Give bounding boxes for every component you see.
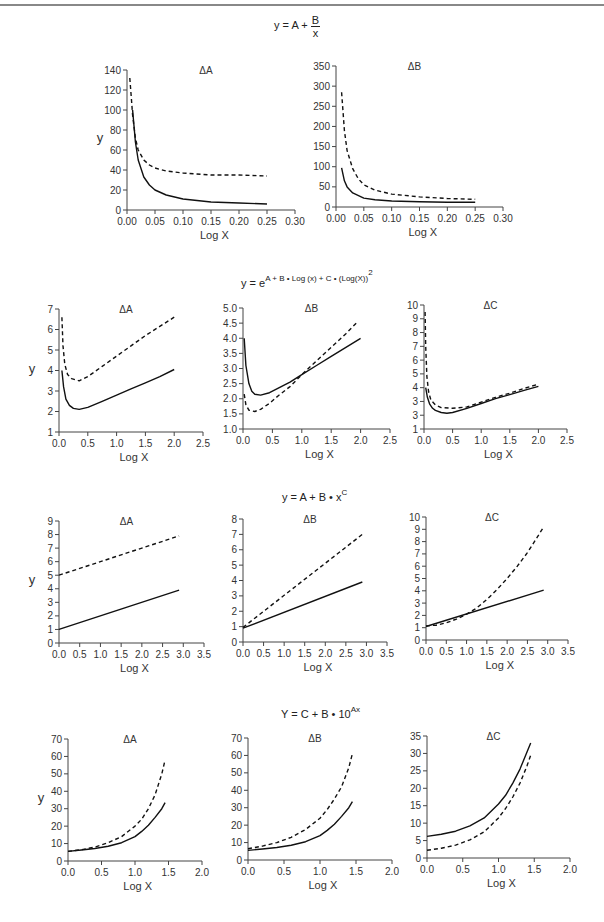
y-tick-label: 30 bbox=[410, 748, 422, 759]
y-tick-label: 9 bbox=[47, 516, 53, 527]
y-tick-label: 3 bbox=[412, 396, 418, 407]
x-axis-label: Log X bbox=[304, 661, 333, 673]
x-tick-label: 0.30 bbox=[285, 216, 305, 227]
chart-10: 0.00.51.01.52.005101520253035ΔCLog X bbox=[410, 731, 578, 890]
chart-title: ΔB bbox=[408, 61, 422, 72]
x-tick-label: 1.5 bbox=[114, 649, 128, 660]
y-tick-label: 0 bbox=[231, 637, 237, 648]
x-tick-label: 0.5 bbox=[265, 435, 279, 446]
solid-series-line bbox=[342, 168, 476, 202]
x-tick-label: 3.0 bbox=[176, 649, 190, 660]
y-tick-label: 40 bbox=[110, 165, 122, 176]
chart-7: 0.00.51.01.52.02.53.03.5012345678910ΔCLo… bbox=[409, 512, 576, 672]
charts-canvas: 0.000.050.100.150.200.250.30020406080100… bbox=[0, 0, 604, 922]
x-tick-label: 1.5 bbox=[480, 646, 494, 657]
x-tick-label: 2.0 bbox=[531, 435, 545, 446]
y-tick-label: 1 bbox=[47, 624, 53, 635]
y-tick-label: 6 bbox=[47, 324, 53, 335]
solid-series-line bbox=[243, 582, 362, 628]
x-tick-label: 0.15 bbox=[410, 213, 430, 224]
y-tick-label: 1.5 bbox=[223, 408, 237, 419]
y-tick-label: 0 bbox=[47, 638, 53, 649]
dashed-series-line bbox=[425, 312, 538, 408]
x-tick-label: 0.5 bbox=[277, 866, 291, 877]
x-axis-label: Log X bbox=[200, 229, 229, 241]
chart-8: 0.00.51.01.52.0010203040506070ΔALog Xy bbox=[38, 734, 210, 893]
y-tick-label: 7 bbox=[47, 543, 53, 554]
x-tick-label: 3.5 bbox=[561, 646, 575, 657]
y-tick-label: 3.0 bbox=[223, 363, 237, 374]
x-tick-label: 1.0 bbox=[492, 864, 506, 875]
x-tick-label: 1.5 bbox=[298, 648, 312, 659]
x-tick-label: 0.0 bbox=[420, 864, 434, 875]
x-tick-label: 2.0 bbox=[167, 438, 181, 449]
y-tick-label: 150 bbox=[313, 141, 330, 152]
x-axis-label: Log X bbox=[408, 226, 437, 238]
x-tick-label: 0.05 bbox=[145, 216, 165, 227]
y-tick-label: 15 bbox=[410, 800, 422, 811]
y-tick-label: 5 bbox=[415, 835, 421, 846]
chart-0: 0.000.050.100.150.200.250.30020406080100… bbox=[97, 65, 305, 242]
dashed-series-line bbox=[59, 536, 179, 575]
x-tick-label: 3.5 bbox=[380, 648, 394, 659]
solid-series-line bbox=[68, 803, 165, 852]
dashed-series-line bbox=[426, 527, 544, 626]
y-tick-label: 4.5 bbox=[223, 318, 237, 329]
y-tick-label: 20 bbox=[51, 821, 63, 832]
y-tick-label: 5 bbox=[414, 573, 420, 584]
x-tick-label: 2.5 bbox=[156, 649, 170, 660]
x-tick-label: 0.10 bbox=[382, 213, 402, 224]
x-tick-label: 0.5 bbox=[73, 649, 87, 660]
x-tick-label: 0.0 bbox=[419, 646, 433, 657]
y-tick-label: 6 bbox=[412, 355, 418, 366]
y-tick-label: 5 bbox=[47, 345, 53, 356]
y-tick-label: 30 bbox=[51, 803, 63, 814]
y-tick-label: 8 bbox=[231, 514, 237, 525]
y-tick-label: 35 bbox=[410, 731, 422, 742]
y-tick-label: 60 bbox=[231, 750, 243, 761]
y-tick-label: 20 bbox=[110, 185, 122, 196]
x-tick-label: 0.25 bbox=[465, 213, 485, 224]
y-tick-label: 3 bbox=[231, 590, 237, 601]
y-tick-label: 5 bbox=[47, 570, 53, 581]
x-tick-label: 0.5 bbox=[446, 435, 460, 446]
y-tick-label: 30 bbox=[231, 802, 243, 813]
y-tick-label: 350 bbox=[313, 61, 330, 72]
y-axis-label: y bbox=[29, 361, 36, 376]
y-tick-label: 3.5 bbox=[223, 348, 237, 359]
dashed-series-line bbox=[68, 760, 165, 852]
y-tick-label: 200 bbox=[313, 121, 330, 132]
solid-series-line bbox=[62, 370, 174, 410]
y-tick-label: 60 bbox=[51, 751, 63, 762]
y-tick-label: 9 bbox=[412, 313, 418, 324]
y-tick-label: 1.0 bbox=[223, 424, 237, 435]
chart-5: 0.00.51.01.52.02.53.03.50123456789ΔALog … bbox=[29, 516, 212, 675]
y-tick-label: 4 bbox=[412, 382, 418, 393]
x-tick-label: 0.5 bbox=[81, 438, 95, 449]
x-tick-label: 2.0 bbox=[195, 867, 209, 878]
x-tick-label: 2.5 bbox=[339, 648, 353, 659]
x-tick-label: 0.0 bbox=[417, 435, 431, 446]
x-tick-label: 0.20 bbox=[438, 213, 458, 224]
y-tick-label: 10 bbox=[409, 512, 421, 523]
x-tick-label: 3.5 bbox=[197, 649, 211, 660]
y-tick-label: 40 bbox=[51, 786, 63, 797]
y-tick-label: 80 bbox=[110, 125, 122, 136]
y-tick-label: 3 bbox=[47, 386, 53, 397]
y-tick-label: 7 bbox=[231, 529, 237, 540]
x-tick-label: 0.05 bbox=[354, 213, 374, 224]
x-tick-label: 0.10 bbox=[173, 216, 193, 227]
y-tick-label: 1 bbox=[412, 424, 418, 435]
x-tick-label: 2.0 bbox=[563, 864, 577, 875]
y-tick-label: 0 bbox=[414, 635, 420, 646]
x-tick-label: 0.0 bbox=[236, 435, 250, 446]
y-tick-label: 70 bbox=[51, 734, 63, 745]
solid-series-line bbox=[244, 338, 360, 395]
chart-title: ΔC bbox=[484, 300, 498, 311]
y-tick-label: 2.5 bbox=[223, 378, 237, 389]
dashed-series-line bbox=[130, 78, 267, 176]
x-tick-label: 0.00 bbox=[117, 216, 137, 227]
dashed-series-line bbox=[427, 755, 531, 850]
y-tick-label: 7 bbox=[412, 341, 418, 352]
y-tick-label: 3 bbox=[412, 410, 418, 421]
